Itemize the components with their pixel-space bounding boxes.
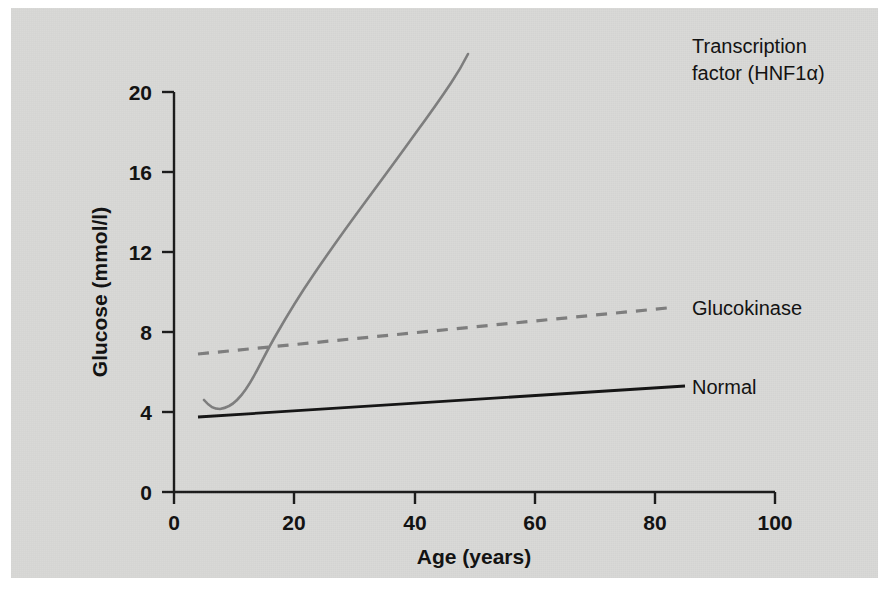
series-line-normal <box>198 386 685 417</box>
x-tick-label-60: 60 <box>523 511 546 534</box>
y-tick-label-12: 12 <box>129 241 152 264</box>
glucose-vs-age-chart: 20 16 12 8 4 0 0 20 40 60 80 100 Age (ye… <box>11 8 878 578</box>
series-label-normal: Normal <box>692 376 756 398</box>
x-axis-ticks <box>174 492 775 504</box>
figure-container: 20 16 12 8 4 0 0 20 40 60 80 100 Age (ye… <box>0 0 889 595</box>
x-tick-label-80: 80 <box>643 511 666 534</box>
y-tick-label-20: 20 <box>129 81 152 104</box>
series-label-transcription-factor-line2: factor (HNF1α) <box>692 62 825 84</box>
series-label-transcription-factor-line1: Transcription <box>692 35 807 57</box>
y-tick-label-4: 4 <box>140 401 152 424</box>
y-axis-ticks <box>162 92 174 492</box>
series-line-transcription-factor-hnf1a <box>204 54 468 409</box>
y-tick-label-0: 0 <box>140 481 152 504</box>
x-tick-label-20: 20 <box>282 511 305 534</box>
y-tick-label-16: 16 <box>129 161 152 184</box>
x-tick-label-0: 0 <box>168 511 180 534</box>
x-axis-title: Age (years) <box>417 545 531 568</box>
x-tick-label-40: 40 <box>403 511 426 534</box>
y-axis-title: Glucose (mmol/l) <box>88 207 111 377</box>
series-label-glucokinase: Glucokinase <box>692 297 802 319</box>
x-tick-label-100: 100 <box>757 511 792 534</box>
y-tick-label-8: 8 <box>140 321 152 344</box>
chart-plate: 20 16 12 8 4 0 0 20 40 60 80 100 Age (ye… <box>11 8 878 578</box>
series-line-glucokinase <box>198 308 667 354</box>
